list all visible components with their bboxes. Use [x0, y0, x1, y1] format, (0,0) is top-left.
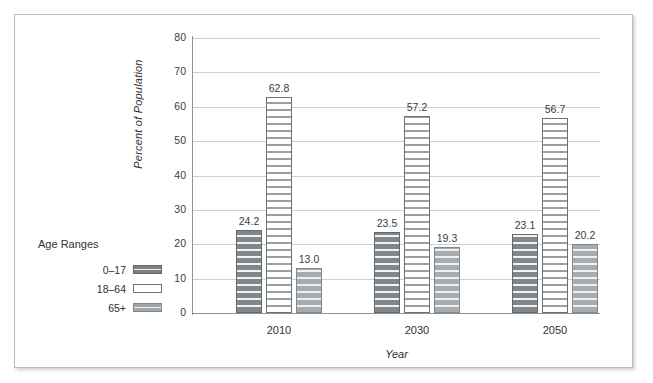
bar-2050-65+[interactable]: [572, 244, 598, 313]
bar-value-label-2050-65+: 20.2: [560, 229, 610, 241]
y-tick-label-0: 0: [160, 307, 186, 318]
bar-value-label-2010-18-64: 62.8: [254, 82, 304, 94]
bar-2010-0-17[interactable]: [236, 230, 262, 313]
x-tick-label-2030: 2030: [372, 324, 462, 336]
y-tick-label-20: 20: [160, 238, 186, 249]
y-axis-tick-labels: 01020304050607080: [156, 0, 186, 383]
legend-label-18-64: 18–64: [97, 283, 126, 295]
figure-container: Age Ranges 0–17 18–64 65+ 01020304050607…: [0, 0, 653, 383]
legend-item-65-plus[interactable]: 65+: [32, 298, 162, 317]
bar-value-label-2030-18-64: 57.2: [392, 101, 442, 113]
gridline-80: [193, 38, 600, 39]
legend-label-65-plus: 65+: [108, 302, 126, 314]
x-tick-label-2050: 2050: [510, 324, 600, 336]
bar-value-label-2030-65+: 19.3: [422, 232, 472, 244]
bar-value-label-2010-65+: 13.0: [284, 253, 334, 265]
gridline-0: [193, 313, 600, 314]
legend-item-18-64[interactable]: 18–64: [32, 279, 162, 298]
y-tick-label-60: 60: [160, 101, 186, 112]
bar-2030-0-17[interactable]: [374, 232, 400, 313]
bar-2010-18-64[interactable]: [266, 97, 292, 313]
gridline-30: [193, 210, 600, 211]
bar-2030-65+[interactable]: [434, 247, 460, 313]
x-tick-label-2010: 2010: [234, 324, 324, 336]
y-tick-label-70: 70: [160, 66, 186, 77]
y-tick-label-30: 30: [160, 204, 186, 215]
bar-2010-65+[interactable]: [296, 268, 322, 313]
y-tick-label-10: 10: [160, 273, 186, 284]
legend-title: Age Ranges: [38, 238, 162, 250]
plot-area: 24.262.813.023.557.219.323.156.720.2: [193, 38, 600, 313]
x-axis-title: Year: [193, 348, 600, 360]
gridline-70: [193, 72, 600, 73]
legend: Age Ranges 0–17 18–64 65+: [32, 238, 162, 317]
y-tick-label-40: 40: [160, 170, 186, 181]
gridline-50: [193, 141, 600, 142]
bar-2050-18-64[interactable]: [542, 118, 568, 313]
y-tick-label-80: 80: [160, 32, 186, 43]
legend-item-0-17[interactable]: 0–17: [32, 260, 162, 279]
bar-value-label-2050-18-64: 56.7: [530, 103, 580, 115]
y-tick-label-50: 50: [160, 135, 186, 146]
bar-2030-18-64[interactable]: [404, 116, 430, 313]
bar-2050-0-17[interactable]: [512, 234, 538, 313]
y-axis-title: Percent of Population: [132, 44, 144, 184]
legend-label-0-17: 0–17: [103, 264, 126, 276]
gridline-40: [193, 176, 600, 177]
